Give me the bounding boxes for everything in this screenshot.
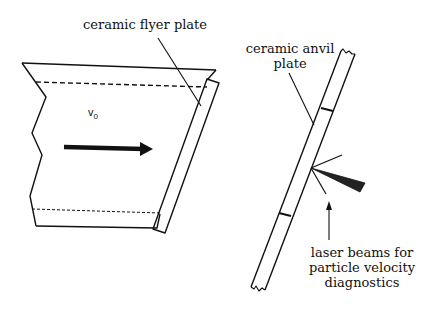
anvil-plate-label-line1: ceramic anvil <box>238 41 342 56</box>
laser-beams-label-line3: diagnostics <box>298 275 426 290</box>
laser-beam-cone <box>311 168 365 192</box>
laser-label-arrowhead <box>326 201 332 210</box>
flyer-plate-leader <box>158 38 201 106</box>
anvil-plate-label: ceramic anvil plate <box>238 41 342 71</box>
velocity-label: v0 <box>88 106 98 121</box>
projectile-body <box>22 63 216 228</box>
laser-beams-label-line2: particle velocity <box>298 260 426 275</box>
laser-beams-label: laser beams for particle velocity diagno… <box>298 245 426 290</box>
flyer-plate-label: ceramic flyer plate <box>83 17 207 32</box>
anvil-plate-label-line2: plate <box>238 56 342 71</box>
velocity-arrow <box>64 142 153 156</box>
impact-experiment-diagram: ceramic flyer plate ceramic anvil plate … <box>0 0 426 312</box>
velocity-subscript: 0 <box>94 112 98 121</box>
flyer-plate <box>153 79 219 233</box>
anvil-plate-leader <box>289 73 314 125</box>
laser-beams-label-line1: laser beams for <box>298 245 426 260</box>
